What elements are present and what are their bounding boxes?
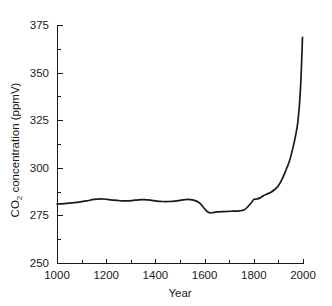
y-axis-tick-label: 300: [30, 162, 49, 174]
x-axis-tick-label: 1000: [44, 269, 70, 281]
y-axis-tick-label: 375: [30, 19, 49, 31]
y-axis-tick-label: 275: [30, 209, 49, 221]
chart-canvas: 250275300325350375 100012001400160018002…: [0, 0, 332, 306]
y-axis-minor-ticks: [58, 50, 62, 240]
x-axis-tick-labels: 100012001400160018002000: [44, 269, 316, 281]
x-axis-title: Year: [168, 287, 191, 299]
x-axis-tick-label: 1400: [143, 269, 169, 281]
x-axis-tick-label: 1200: [93, 269, 119, 281]
y-axis-title: CO2 concentration (ppmV): [9, 82, 24, 217]
x-axis-tick-label: 1600: [192, 269, 218, 281]
x-axis-minor-ticks: [83, 260, 279, 264]
svg-text:CO2 concentration (ppmV): CO2 concentration (ppmV): [9, 82, 24, 217]
y-axis-tick-label: 250: [30, 257, 49, 269]
x-axis-tick-label: 1800: [241, 269, 267, 281]
y-axis-title-main: CO: [9, 200, 21, 217]
x-axis-tick-label: 2000: [290, 269, 316, 281]
co2-data-line: [57, 37, 303, 212]
y-axis-title-rest: concentration (ppmV): [9, 82, 21, 195]
y-axis-tick-label: 350: [30, 67, 49, 79]
y-axis-tick-label: 325: [30, 114, 49, 126]
co2-concentration-chart: 250275300325350375 100012001400160018002…: [0, 0, 332, 306]
y-axis-tick-labels: 250275300325350375: [30, 19, 49, 269]
